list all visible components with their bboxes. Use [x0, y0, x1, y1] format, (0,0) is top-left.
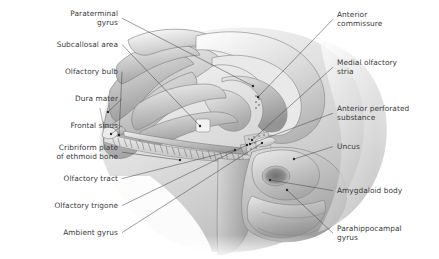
label-cribriform-plate: Cribriform plate of ethmoid bone [8, 143, 118, 161]
label-olfactory-trigone: Olfactory trigone [18, 201, 118, 210]
label-frontal-sinus: Frontal sinus [18, 121, 118, 130]
label-medial-olfactory-stria: Medial olfactory stria [337, 58, 435, 76]
label-olfactory-tract: Olfactory tract [18, 174, 118, 183]
hypothalamic-block [196, 119, 210, 132]
label-parahippocampal-gyrus: Parahippocampal gyrus [337, 224, 435, 242]
anatomy-figure: Paraterminal gyrusSubcallosal areaOlfact… [0, 0, 439, 259]
label-ambient-gyrus: Ambient gyrus [18, 228, 118, 237]
label-olfactory-bulb: Olfactory bulb [18, 67, 118, 76]
amygdaloid-body [262, 166, 290, 186]
label-amygdaloid-body: Amygdaloid body [337, 186, 435, 195]
label-anterior-perforated-substance: Anterior perforated substance [337, 104, 437, 122]
label-dura-mater: Dura mater [18, 94, 118, 103]
label-anterior-commissure: Anterior commissure [337, 10, 435, 28]
label-uncus: Uncus [337, 142, 435, 151]
label-subcallosal-area: Subcallosal area [18, 40, 118, 49]
label-paraterminal-gyrus: Paraterminal gyrus [18, 9, 118, 27]
